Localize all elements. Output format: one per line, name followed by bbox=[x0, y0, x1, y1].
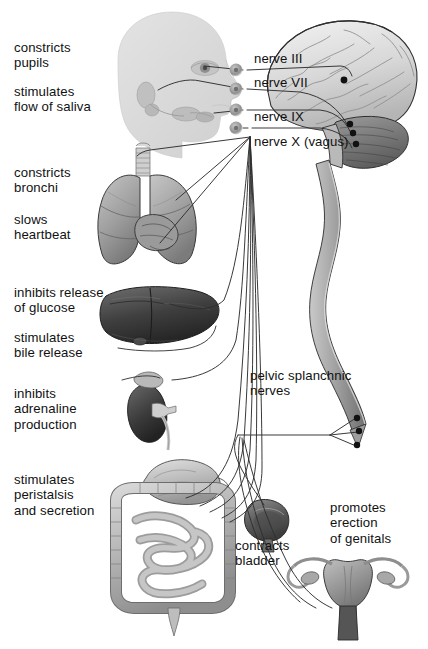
label-stimulates-peristalsis: stimulates peristalsis and secretion bbox=[14, 472, 94, 518]
label-pelvic-splanchnic: pelvic splanchnic nerves bbox=[250, 368, 351, 399]
label-contracts-bladder: contracts bladder bbox=[235, 538, 289, 569]
label-constricts-pupils: constricts pupils bbox=[14, 40, 71, 71]
label-nerve-x: nerve X (vagus) bbox=[254, 134, 349, 149]
label-nerve-vii: nerve VII bbox=[254, 75, 308, 90]
label-constricts-bronchi: constricts bronchi bbox=[14, 165, 71, 196]
cranial-ganglia bbox=[230, 64, 243, 135]
vagus-fan bbox=[137, 137, 262, 522]
label-stimulates-saliva: stimulates flow of saliva bbox=[14, 84, 91, 115]
label-leaders bbox=[110, 301, 216, 380]
label-nerve-iii: nerve III bbox=[254, 51, 303, 66]
label-promotes-erection: promotes erection of genitals bbox=[330, 500, 391, 546]
label-slows-heartbeat: slows heartbeat bbox=[14, 212, 71, 243]
label-nerve-ix: nerve IX bbox=[254, 109, 304, 124]
diagram-canvas: constricts pupils stimulates flow of sal… bbox=[0, 0, 428, 649]
label-inhibits-glucose: inhibits release of glucose bbox=[14, 285, 104, 316]
label-stimulates-bile: stimulates bile release bbox=[14, 330, 83, 361]
label-inhibits-adrenaline: inhibits adrenaline production bbox=[14, 386, 77, 432]
